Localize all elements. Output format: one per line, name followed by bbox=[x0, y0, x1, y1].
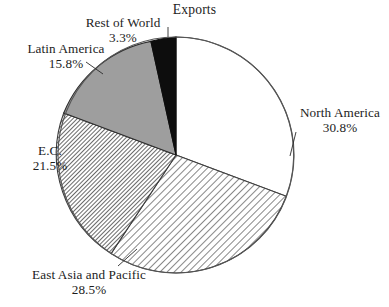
pie-chart-figure: Exports Rest of World 3.3% Latin America… bbox=[0, 0, 389, 307]
slice-label-east-asia-and-pacific: East Asia and Pacific 28.5% bbox=[0, 268, 178, 298]
slice-label-north-america: North America 30.8% bbox=[292, 106, 388, 136]
slice-label-latin-america-percent: 15.8% bbox=[2, 57, 130, 72]
slice-label-ec-percent: 21.5% bbox=[2, 159, 98, 174]
slice-label-north-america-name: North America bbox=[292, 106, 388, 121]
slice-label-rest-of-world-name: Rest of World bbox=[58, 16, 188, 31]
slice-label-east-asia-and-pacific-name: East Asia and Pacific bbox=[0, 268, 178, 283]
slice-label-north-america-percent: 30.8% bbox=[292, 121, 388, 136]
slice-label-ec-name: E.C. bbox=[2, 144, 98, 159]
slice-label-latin-america-name: Latin America bbox=[2, 42, 130, 57]
slice-label-latin-america: Latin America 15.8% bbox=[2, 42, 130, 72]
slice-label-ec: E.C. 21.5% bbox=[2, 144, 98, 174]
slice-label-east-asia-and-pacific-percent: 28.5% bbox=[0, 283, 178, 298]
